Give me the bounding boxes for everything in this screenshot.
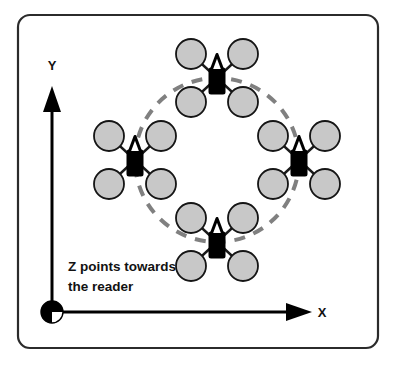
quadrotor-rotor bbox=[228, 251, 258, 281]
diagram-canvas: Y X Z points towards the reader bbox=[0, 0, 397, 370]
figure-root: Y X Z points towards the reader bbox=[0, 0, 397, 370]
z-note-line-1: Z points towards bbox=[68, 259, 176, 274]
quadrotor-rotor bbox=[258, 121, 288, 151]
quadrotor-rotor bbox=[146, 169, 176, 199]
z-out-of-page-symbol bbox=[41, 301, 63, 323]
quadrotor-rotor bbox=[146, 121, 176, 151]
quadrotor-rotor bbox=[176, 39, 206, 69]
quadrotor-rotor bbox=[176, 203, 206, 233]
quadrotor-rotor bbox=[310, 169, 340, 199]
quadrotor-rotor bbox=[228, 39, 258, 69]
x-axis-label: X bbox=[318, 305, 327, 320]
quadrotor-rotor bbox=[94, 121, 124, 151]
quadrotor-rotor bbox=[228, 203, 258, 233]
quadrotor-rotor bbox=[176, 87, 206, 117]
quadrotor-rotor bbox=[228, 87, 258, 117]
z-note-line-2: the reader bbox=[68, 279, 134, 294]
quadrotor-rotor bbox=[94, 169, 124, 199]
quadrotor-rotor bbox=[258, 169, 288, 199]
y-axis-label: Y bbox=[48, 58, 57, 73]
quadrotor-rotor bbox=[176, 251, 206, 281]
quadrotor-rotor bbox=[310, 121, 340, 151]
